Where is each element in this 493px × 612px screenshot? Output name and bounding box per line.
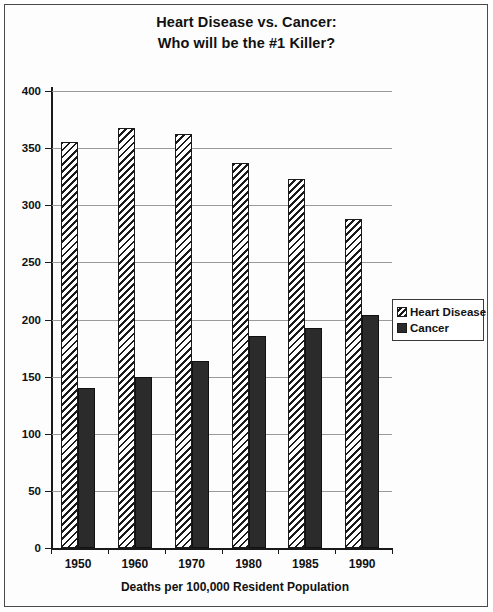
y-tick-label-350: 350 [22,142,41,154]
y-tick-150 [45,377,52,378]
y-tick-300 [45,205,52,206]
bar-1970-heart-disease [175,134,192,548]
chart-page: Heart Disease vs. Cancer: Who will be th… [0,0,493,612]
legend-item-heart-disease[interactable]: Heart Disease [397,304,479,320]
y-tick-200 [45,320,52,321]
bar-1950-cancer [78,388,95,548]
bar-1985-cancer [305,328,322,549]
gridline-400 [51,91,392,92]
legend-swatch-heart-disease-icon [397,307,407,317]
gridline-300 [51,205,392,206]
legend-label-heart-disease: Heart Disease [410,306,486,318]
y-tick-label-50: 50 [28,485,41,497]
chart-title: Heart Disease vs. Cancer: Who will be th… [0,12,493,54]
chart-caption: Deaths per 100,000 Resident Population [0,580,470,594]
y-tick-350 [45,148,52,149]
x-tick-1970 [165,548,166,554]
y-tick-label-200: 200 [22,314,41,326]
x-tick-label-1950: 1950 [65,557,92,571]
bar-1985-heart-disease [288,179,305,548]
legend-item-cancer[interactable]: Cancer [397,320,479,336]
bar-1960-heart-disease [118,128,135,548]
x-tick-1990 [335,548,336,554]
bar-1950-heart-disease [61,142,78,548]
x-tick-label-1980: 1980 [235,557,262,571]
bar-1980-cancer [249,336,266,549]
gridline-100 [51,434,392,435]
y-tick-label-150: 150 [22,371,41,383]
x-tick-end [392,548,393,554]
y-tick-50 [45,491,52,492]
gridline-150 [51,377,392,378]
y-tick-400 [45,91,52,92]
x-tick-1980 [222,548,223,554]
y-tick-100 [45,434,52,435]
gridline-250 [51,262,392,263]
gridline-200 [51,320,392,321]
y-tick-label-400: 400 [22,85,41,97]
y-axis-line [51,87,53,548]
y-tick-250 [45,262,52,263]
x-tick-label-1985: 1985 [292,557,319,571]
x-tick-label-1970: 1970 [178,557,205,571]
x-tick-1985 [278,548,279,554]
bar-1990-cancer [362,315,379,548]
chart-legend: Heart Disease Cancer [392,299,484,341]
legend-swatch-cancer-icon [397,323,407,333]
plot-area: 050100150200250300350400 195019601970198… [51,91,392,548]
bar-1960-cancer [135,377,152,548]
y-tick-label-100: 100 [22,428,41,440]
bar-1970-cancer [192,361,209,548]
chart-title-line-1: Heart Disease vs. Cancer: [0,12,493,33]
x-tick-1950 [51,548,52,554]
chart-title-line-2: Who will be the #1 Killer? [0,33,493,54]
x-tick-label-1960: 1960 [121,557,148,571]
x-tick-label-1990: 1990 [349,557,376,571]
gridline-350 [51,148,392,149]
y-tick-label-250: 250 [22,256,41,268]
y-tick-label-0: 0 [35,542,41,554]
x-tick-1960 [108,548,109,554]
legend-label-cancer: Cancer [410,322,449,334]
bar-1980-heart-disease [232,163,249,548]
gridline-50 [51,491,392,492]
bar-1990-heart-disease [345,219,362,548]
y-tick-label-300: 300 [22,199,41,211]
